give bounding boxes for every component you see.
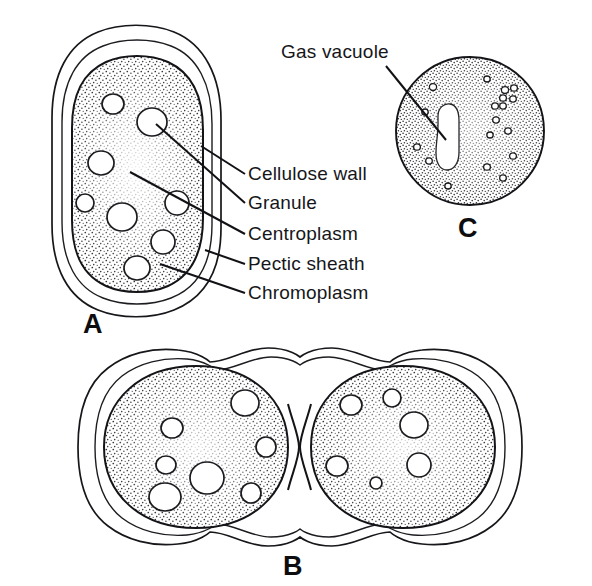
granule-shape: [190, 462, 224, 494]
granule-shape: [161, 418, 183, 438]
granule-shape: [241, 483, 261, 503]
granule-shape: [256, 437, 276, 457]
speck-shape: [429, 84, 436, 91]
granule-shape: [370, 477, 382, 489]
granule-shape: [340, 395, 362, 415]
speck-shape: [484, 164, 491, 170]
granule-shape: [124, 256, 150, 280]
speck-shape: [414, 144, 421, 150]
speck-shape: [505, 128, 512, 134]
granule-shape: [326, 456, 348, 476]
speck-shape: [445, 183, 451, 189]
label-centroplasm: Centroplasm: [248, 223, 358, 244]
label-chromoplasm: Chromoplasm: [248, 282, 368, 303]
figure-canvas: A Cellulose wall Granule Centroplasm Pec…: [0, 0, 592, 586]
speck-shape: [510, 96, 517, 102]
granule-shape: [76, 194, 94, 212]
speck-shape: [484, 76, 490, 82]
label-granule: Granule: [248, 192, 317, 213]
granule-shape: [383, 389, 401, 407]
label-gas-vacuole: Gas vacuole: [281, 41, 389, 62]
label-cellulose-wall: Cellulose wall: [248, 163, 367, 184]
panel-c-letter: C: [458, 213, 478, 243]
granule-shape: [151, 230, 175, 254]
granule-shape: [137, 108, 167, 136]
label-pectic-sheath: Pectic sheath: [248, 253, 365, 274]
granule-shape: [407, 453, 431, 477]
speck-shape: [426, 158, 433, 164]
granule-shape: [400, 412, 428, 438]
speck-shape: [511, 85, 518, 91]
speck-shape: [510, 153, 517, 159]
granule-shape: [231, 390, 259, 416]
speck-shape: [501, 87, 508, 94]
speck-shape: [500, 175, 507, 181]
gas-vacuole-shape: [436, 104, 459, 170]
granule-shape: [88, 151, 114, 175]
panel-b-letter: B: [283, 551, 303, 581]
granule-shape: [102, 94, 124, 114]
granule-shape: [156, 456, 176, 474]
speck-shape: [500, 103, 507, 109]
granule-shape: [107, 203, 137, 231]
panel-a-letter: A: [83, 309, 103, 339]
cell-structure-diagram: A Cellulose wall Granule Centroplasm Pec…: [0, 0, 592, 586]
speck-shape: [492, 103, 499, 109]
speck-shape: [493, 117, 500, 123]
speck-shape: [500, 95, 507, 101]
granule-shape: [149, 483, 181, 511]
speck-shape: [487, 132, 493, 138]
